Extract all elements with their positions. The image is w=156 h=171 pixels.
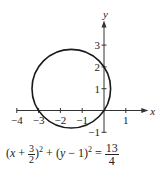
y-tick-label: 3 (95, 39, 101, 51)
y-tick-label: −1 (88, 126, 100, 138)
x-tick-label: −4 (11, 114, 23, 126)
y-axis-label: y (102, 8, 108, 20)
x-tick-label: 1 (123, 114, 129, 126)
eq-plus: + (15, 146, 28, 160)
eq-plus2: + ( (43, 146, 60, 160)
x-axis-arrow (141, 108, 148, 113)
eq-rhs-den: 4 (105, 155, 119, 167)
y-tick-label: 2 (95, 61, 101, 73)
y-tick-label: 1 (95, 83, 101, 95)
equation-annotation: (x + 32)2 + (y − 1)2 = 134 (6, 142, 119, 167)
y-axis-arrow (102, 20, 107, 27)
x-tick-label: −2 (55, 114, 67, 126)
tick-labels: xy−4−3−2−11−1123 (11, 8, 155, 138)
eq-minus: − 1) (65, 146, 88, 160)
eq-equals: = (92, 146, 105, 160)
eq-rhs-fraction: 134 (105, 142, 119, 167)
x-axis-label: x (149, 105, 155, 117)
x-tick-label: −1 (76, 114, 88, 126)
